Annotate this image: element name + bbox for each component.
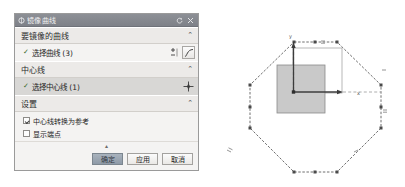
section-header-centerline[interactable]: 中心线 ⌃ xyxy=(15,61,198,78)
check-icon-curves: ✓ xyxy=(23,49,29,56)
settings-body: 中心线转换为参考 显示端点 xyxy=(15,112,198,141)
ok-button[interactable]: 确定 xyxy=(92,153,123,165)
mirror-icon xyxy=(17,16,25,24)
section-header-settings[interactable]: 设置 ⌃ xyxy=(15,95,198,112)
reset-icon[interactable] xyxy=(175,16,184,25)
row-select-curves[interactable]: ✓ 选择曲线 (3) xyxy=(15,44,198,61)
filled-square[interactable] xyxy=(277,65,325,113)
checkbox-show-endpoints[interactable] xyxy=(23,130,30,137)
checkbox-convert-centerline[interactable] xyxy=(23,117,30,124)
dialog-body: 要镜像的曲线 ⌃ ✓ 选择曲线 (3) xyxy=(15,27,198,170)
row-tools-curves xyxy=(168,46,195,59)
row-label-select-centerline: 选择中心线 (1) xyxy=(32,81,182,92)
close-icon[interactable] xyxy=(186,16,195,25)
point-cross-icon[interactable] xyxy=(182,80,195,93)
titlebar-buttons xyxy=(175,16,196,25)
chevron-up-icon-settings[interactable]: ⌃ xyxy=(187,100,194,107)
section-label-curves: 要镜像的曲线 xyxy=(21,30,187,41)
checkbox-label-show-endpoints: 显示端点 xyxy=(33,129,61,139)
grip-up-icon[interactable]: ▴ xyxy=(105,143,108,149)
mirror-curve-dialog: 镜像曲线 要镜像的曲线 ⌃ ✓ 选择曲线 (3) xyxy=(14,13,199,171)
dialog-button-bar: 确定 应用 取消 xyxy=(15,150,198,170)
row-label-select-curves: 选择曲线 (3) xyxy=(32,47,168,58)
checkbox-row-convert-centerline[interactable]: 中心线转换为参考 xyxy=(23,115,198,126)
origin-point[interactable] xyxy=(292,90,295,93)
chevron-up-icon-centerline[interactable]: ⌃ xyxy=(187,66,194,73)
curve-icon[interactable] xyxy=(182,46,195,59)
chevron-up-icon-curves[interactable]: ⌃ xyxy=(187,32,194,39)
y-axis-label: y xyxy=(289,33,292,40)
dialog-titlebar[interactable]: 镜像曲线 xyxy=(15,14,198,27)
x-axis-label: x xyxy=(357,90,360,96)
apply-button[interactable]: 应用 xyxy=(127,153,158,165)
checkbox-label-convert-centerline: 中心线转换为参考 xyxy=(33,116,89,126)
select-plus-minus-icon[interactable] xyxy=(168,46,181,59)
cad-sketch-view[interactable]: x y xyxy=(203,0,405,187)
cancel-button[interactable]: 取消 xyxy=(162,153,193,165)
row-select-centerline[interactable]: ✓ 选择中心线 (1) xyxy=(15,78,198,95)
section-label-centerline: 中心线 xyxy=(21,64,187,75)
section-label-settings: 设置 xyxy=(21,98,187,109)
row-tools-centerline xyxy=(182,80,195,93)
checkbox-row-show-endpoints[interactable]: 显示端点 xyxy=(23,128,198,139)
dialog-resize-grip[interactable]: ▴ xyxy=(15,141,198,150)
dialog-title: 镜像曲线 xyxy=(27,15,175,25)
check-icon-centerline: ✓ xyxy=(23,83,29,90)
section-header-curves[interactable]: 要镜像的曲线 ⌃ xyxy=(15,27,198,44)
